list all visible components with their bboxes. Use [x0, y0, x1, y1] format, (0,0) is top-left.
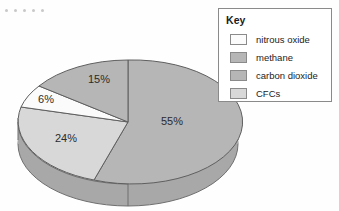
legend-title: Key — [226, 14, 325, 26]
legend-swatch-icon — [230, 88, 247, 99]
legend-item-cfcs[interactable]: CFCs — [226, 85, 325, 101]
legend-box: Key nitrous oxide methane carbon dioxide… — [218, 8, 332, 102]
pie-label-cfcs: 24% — [55, 132, 77, 144]
legend-swatch-icon — [230, 52, 247, 63]
legend-item-label: methane — [256, 52, 293, 63]
legend-item-nitrous-oxide[interactable]: nitrous oxide — [226, 31, 325, 47]
legend-item-label: CFCs — [256, 88, 280, 99]
legend-item-label: carbon dioxide — [256, 70, 318, 81]
pie-label-carbon-dioxide: 55% — [161, 115, 183, 127]
chart-canvas: 55% 24% 6% 15% Key nitrous oxide methane… — [0, 0, 339, 211]
pie-label-nitrous-oxide: 6% — [38, 93, 54, 105]
legend-item-label: nitrous oxide — [256, 34, 310, 45]
legend-item-methane[interactable]: methane — [226, 49, 325, 65]
legend-item-carbon-dioxide[interactable]: carbon dioxide — [226, 67, 325, 83]
legend-swatch-icon — [230, 70, 247, 81]
pie-label-methane: 15% — [88, 73, 110, 85]
legend-swatch-icon — [230, 34, 247, 45]
